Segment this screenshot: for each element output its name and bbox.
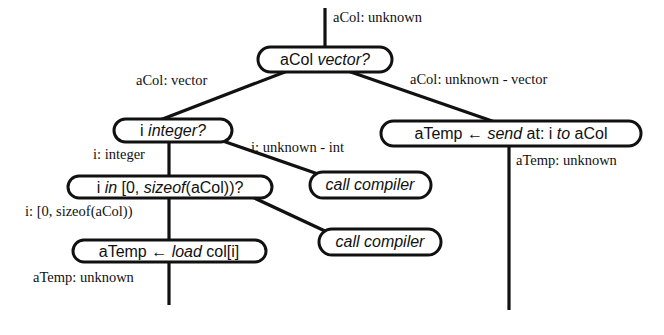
node-load-op-label: aTemp ← load col[i] [99, 243, 240, 260]
edge-range-false [250, 196, 325, 231]
label-vector-true: aCol: vector [136, 72, 207, 88]
node-integer-test-label: i integer? [140, 122, 206, 139]
label-vector-false: aCol: unknown - vector [410, 71, 547, 87]
label-integer-false: i: unknown - int [251, 139, 344, 155]
node-call-compiler-2-label: call compiler [336, 233, 426, 250]
node-call-compiler-1-label: call compiler [326, 176, 416, 193]
node-load-op: aTemp ← load col[i] [73, 240, 266, 262]
node-integer-test: i integer? [114, 119, 232, 142]
label-load-result: aTemp: unknown [33, 269, 135, 285]
node-send-op: aTemp ← send at: i to aCol [381, 121, 641, 146]
node-send-op-label: aTemp ← send at: i to aCol [414, 125, 607, 142]
label-range-true: i: [0, sizeof(aCol)) [25, 203, 133, 220]
label-integer-true: i: integer [93, 146, 145, 162]
node-vector-test-label: aCol vector? [280, 51, 370, 68]
node-range-test-label: i in [0, sizeof(aCol))? [97, 179, 244, 196]
label-send-result: aTemp: unknown [516, 152, 618, 168]
node-range-test: i in [0, sizeof(aCol))? [68, 176, 272, 198]
node-call-compiler-2: call compiler [319, 229, 441, 255]
node-call-compiler-1: call compiler [310, 172, 431, 198]
node-vector-test: aCol vector? [258, 47, 392, 72]
type-inference-diagram: aCol vector? i integer? i in [0, sizeof(… [0, 0, 664, 335]
label-entry: aCol: unknown [333, 9, 423, 25]
